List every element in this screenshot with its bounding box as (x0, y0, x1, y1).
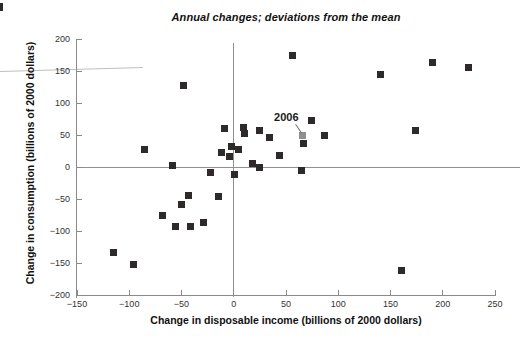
x-axis-spine (76, 295, 496, 297)
y-tick-label: 150 (36, 66, 70, 77)
y-tick-mark (77, 231, 82, 232)
data-point (321, 132, 328, 139)
y-tick-label: 200 (36, 34, 70, 45)
y-tick-mark (77, 263, 82, 264)
x-tick-mark (181, 290, 182, 295)
zero-vertical-line (233, 43, 234, 297)
data-point (159, 212, 166, 219)
y-tick-mark (77, 71, 82, 72)
x-tick-label: −100 (119, 299, 139, 309)
y-axis-label: Change in consumption (billions of 2000 … (24, 42, 36, 285)
x-tick-label: 50 (281, 299, 291, 309)
y-tick-mark (77, 39, 82, 40)
x-tick-mark (390, 290, 391, 295)
data-point (110, 249, 117, 256)
data-point (289, 52, 296, 59)
x-tick-mark (495, 290, 496, 295)
data-point (429, 59, 436, 66)
y-tick-label: 0 (36, 162, 70, 173)
data-point (235, 146, 242, 153)
data-point (221, 125, 228, 132)
data-point (200, 219, 207, 226)
data-point (249, 160, 256, 167)
chart-title: Annual changes; deviations from the mean (77, 11, 495, 23)
x-tick-mark (442, 290, 443, 295)
x-tick-mark (233, 290, 234, 295)
scan-artifact-line (0, 67, 143, 72)
data-point (266, 134, 273, 141)
data-point (180, 82, 187, 89)
x-tick-label: −50 (174, 299, 189, 309)
x-tick-label: 0 (231, 299, 236, 309)
data-point (276, 152, 283, 159)
y-tick-mark (77, 103, 82, 104)
x-tick-label: −150 (67, 299, 87, 309)
data-point (141, 146, 148, 153)
data-point (256, 127, 263, 134)
x-tick-label: 250 (487, 299, 502, 309)
x-tick-mark (129, 290, 130, 295)
data-point (412, 127, 419, 134)
y-tick-mark (77, 199, 82, 200)
data-point (231, 171, 238, 178)
data-point (169, 162, 176, 169)
data-point (215, 193, 222, 200)
x-tick-mark (286, 290, 287, 295)
data-point (185, 192, 192, 199)
scan-artifact-mark (0, 3, 3, 11)
data-point (256, 164, 263, 171)
y-tick-label: 50 (36, 130, 70, 141)
data-point (298, 167, 305, 174)
scatter-chart-figure: Annual changes; deviations from the mean… (0, 0, 520, 363)
data-point (308, 117, 315, 124)
y-tick-label: −200 (36, 290, 70, 301)
x-tick-label: 100 (331, 299, 346, 309)
data-point (377, 71, 384, 78)
data-point (187, 223, 194, 230)
data-point (226, 153, 233, 160)
annotation-2006-label: 2006 (274, 111, 298, 123)
y-axis-spine (76, 39, 78, 298)
y-tick-mark (77, 295, 82, 296)
data-point (172, 223, 179, 230)
data-point (300, 140, 307, 147)
data-point (228, 143, 235, 150)
x-tick-label: 200 (435, 299, 450, 309)
y-tick-label: −100 (36, 226, 70, 237)
data-point (465, 64, 472, 71)
data-point (207, 169, 214, 176)
y-tick-label: −150 (36, 258, 70, 269)
data-point (178, 201, 185, 208)
x-axis-label: Change in disposable income (billions of… (77, 314, 495, 326)
x-tick-mark (338, 290, 339, 295)
data-point (218, 149, 225, 156)
data-point (130, 261, 137, 268)
y-tick-mark (77, 135, 82, 136)
y-tick-mark (77, 167, 82, 168)
data-point (241, 130, 248, 137)
data-point (398, 267, 405, 274)
x-tick-label: 150 (383, 299, 398, 309)
y-tick-label: −50 (36, 194, 70, 205)
y-tick-label: 100 (36, 98, 70, 109)
